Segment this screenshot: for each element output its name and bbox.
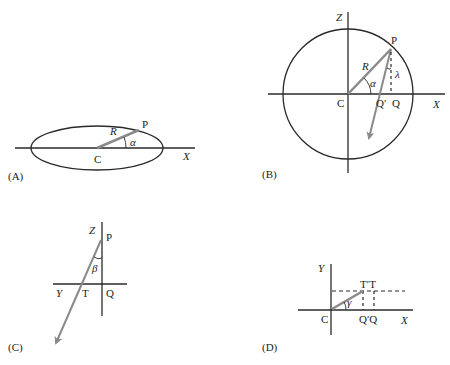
diagram-canvas: C P R α X (A) C P R α λ Q′ Q X Z (B) P β… [0,0,450,365]
label-alpha: α [130,136,136,148]
panel-d: Y γ T′T C Q′Q X (D) [262,262,413,354]
caption-d: (D) [262,341,278,354]
label-c: C [337,97,344,109]
label-r: R [361,60,369,72]
label-y: Y [318,262,326,274]
caption-c: (C) [8,341,23,354]
caption-b: (B) [262,168,277,181]
angle-arc [124,137,126,148]
label-c: C [94,153,101,165]
label-y: Y [56,287,64,299]
label-z: Z [89,224,96,236]
caption-a: (A) [8,170,24,183]
label-p: P [106,231,112,243]
label-p: P [391,34,397,46]
panel-c: P β T Q Y Z (C) [8,222,127,354]
label-q-prime: Q′ [376,97,386,109]
label-x: X [182,150,191,162]
lambda-arc [387,68,391,69]
beta-arc [94,257,102,259]
label-q: Q [106,287,114,299]
label-q: Q [392,97,400,109]
label-alpha: α [370,77,376,89]
panel-a: C P R α X (A) [8,118,195,183]
panel-b: C P R α λ Q′ Q X Z (B) [262,11,445,181]
label-c: C [321,313,328,325]
label-r: R [109,125,117,137]
label-q-prime-q: Q′Q [359,313,377,325]
label-lambda: λ [394,68,400,80]
label-x: X [400,314,409,326]
label-t-prime-t: T′T [360,278,376,290]
gamma-arc [344,302,346,310]
label-t: T [82,287,89,299]
label-x: X [432,98,441,110]
label-z: Z [336,11,343,23]
label-p: P [142,118,148,130]
direction-vector [56,240,101,343]
label-beta: β [91,262,98,274]
label-gamma: γ [347,296,352,308]
